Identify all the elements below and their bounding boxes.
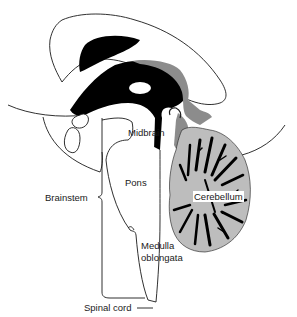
pituitary-outline [64, 128, 80, 153]
label-medulla-line2: oblongata [141, 252, 183, 263]
label-brainstem: Brainstem [45, 192, 88, 203]
brain-base-line-right [242, 125, 285, 155]
label-cerebellum: Cerebellum [193, 191, 244, 202]
cerebellum-graphic [169, 127, 250, 252]
interthalamic-adhesion [129, 82, 151, 94]
label-midbrain: Midbrain [128, 127, 164, 138]
label-spinal-cord: Spinal cord [84, 302, 132, 313]
brainstem-outline [102, 118, 160, 302]
brain-illustration [0, 0, 297, 317]
label-medulla-line1: Medulla [141, 240, 174, 251]
label-pons: Pons [125, 177, 147, 188]
brain-diagram: Midbrain Pons Brainstem Cerebellum Medul… [0, 0, 297, 317]
